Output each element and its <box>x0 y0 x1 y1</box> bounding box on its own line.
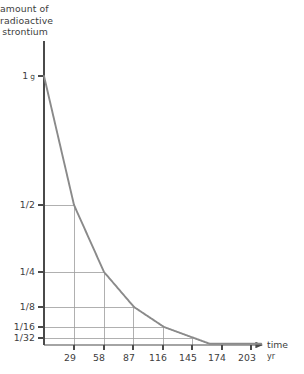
grid-horizontal <box>44 205 192 338</box>
decay-chart: amount of radioactive strontium 1g 1/2 1… <box>0 0 304 374</box>
y-axis-ticks <box>38 76 44 338</box>
decay-curve <box>44 76 261 344</box>
x-axis-ticks <box>74 345 251 350</box>
plot-area <box>0 0 304 374</box>
grid-vertical <box>74 205 192 345</box>
